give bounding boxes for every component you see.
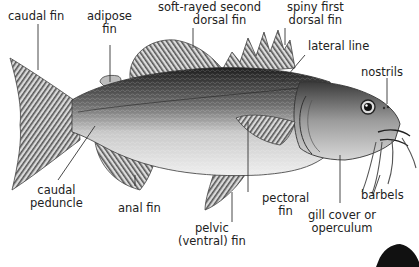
label-nostrils: nostrils [361,66,403,79]
label-text: caudal fin [8,9,64,23]
label-adipose-fin: adipose fin [87,10,132,36]
caudal-fin-shape [10,58,80,190]
label-text: fin [262,205,309,218]
label-text: barbels [361,188,404,202]
label-pectoral-fin: pectoral fin [262,192,309,218]
label-text: anal fin [118,201,161,215]
label-text: dorsal fin [158,14,261,27]
fish-head-shape [294,82,400,160]
label-barbels: barbels [361,189,404,202]
label-lateral-line: lateral line [308,40,369,53]
label-text: operculum [308,222,376,235]
label-text: fin [87,23,132,36]
label-text: dorsal fin [287,14,344,27]
label-gill-cover-operculum: gill cover or operculum [308,209,376,235]
label-soft-rayed-second-dorsal-fin: soft-rayed second dorsal fin [158,1,261,27]
label-caudal-fin: caudal fin [8,10,64,23]
pelvic-fin-shape [205,170,245,210]
label-text: lateral line [308,39,369,53]
label-spiny-first-dorsal-fin: spiny first dorsal fin [287,1,344,27]
label-pelvic-ventral-fin: pelvic (ventral) fin [178,222,246,248]
label-caudal-peduncle: caudal peduncle [30,184,83,210]
label-anal-fin: anal fin [118,202,161,215]
fish-anatomy-diagram: caudal fin adipose fin soft-rayed second… [0,0,419,267]
label-text: peduncle [30,197,83,210]
label-text: nostrils [361,65,403,79]
partial-object-shape [376,244,419,267]
label-text: (ventral) fin [178,235,246,248]
